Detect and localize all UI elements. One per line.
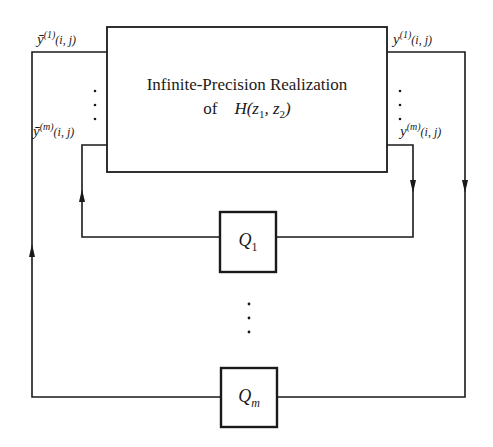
dot (399, 104, 402, 107)
signal-label-ybar-1: ȳ(1)(i, j) (37, 30, 76, 47)
main-block-label: Infinite-Precision Realization of H(z1, … (107, 27, 387, 172)
dot (94, 118, 97, 121)
dot (94, 104, 97, 107)
quantizer-q1-label: Q1 (220, 230, 276, 255)
dot (399, 118, 402, 121)
signal-label-y-1: y(1)(i, j) (393, 30, 432, 47)
signal-label-y-m: y(m)(i, j) (400, 122, 441, 139)
dot (248, 317, 251, 320)
arrow-down-outer-right-icon (462, 180, 468, 193)
dot (94, 90, 97, 93)
arrow-down-inner-right-icon (410, 180, 416, 193)
dot (248, 331, 251, 334)
dot (399, 90, 402, 93)
arrow-up-inner-left-icon (79, 189, 85, 202)
main-block-transfer-function: of H(z1, z2) (203, 99, 291, 120)
dot (248, 303, 251, 306)
main-block-title: Infinite-Precision Realization (147, 75, 348, 95)
quantizer-qm-label: Qm (221, 386, 277, 411)
signal-label-ybar-m: ȳ(m)(i, j) (33, 122, 74, 139)
arrow-up-outer-left-icon (29, 244, 35, 257)
